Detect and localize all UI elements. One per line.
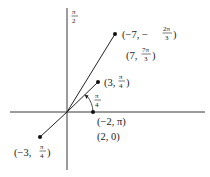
angle-label-pi-over-4: π 4: [95, 92, 102, 109]
point-c-label: (−2, π): [97, 116, 126, 128]
svg-text:2π: 2π: [163, 25, 171, 33]
ray-point-a: [67, 34, 115, 112]
svg-text:π: π: [119, 73, 123, 81]
svg-text:7π: 7π: [142, 46, 150, 54]
svg-text:(−3,: (−3,: [14, 147, 31, 159]
svg-text:(3,: (3,: [104, 77, 115, 89]
polar-diagram: π 2 π 4 (−7, − 2π 3 ) (7, 7π 3 ) (3, π 4: [0, 0, 210, 177]
point-c-alt-label: (2, 0): [97, 131, 120, 143]
point-d-dot: [38, 135, 42, 139]
point-b-label: (3, π 4 ): [104, 73, 130, 90]
svg-text:π: π: [72, 8, 76, 16]
svg-text:): ): [47, 147, 51, 159]
svg-text:2: 2: [72, 17, 76, 25]
svg-text:4: 4: [119, 82, 123, 90]
ray-point-d: [40, 112, 67, 137]
angle-arc: [87, 96, 93, 112]
svg-text:3: 3: [144, 55, 148, 63]
axis-label-pi-over-2: π 2: [72, 8, 79, 25]
svg-text:π: π: [40, 143, 44, 151]
svg-text:3: 3: [165, 34, 169, 42]
point-d-label: (−3, π 4 ): [14, 143, 51, 160]
svg-text:4: 4: [95, 101, 99, 109]
svg-text:): ): [126, 77, 130, 89]
svg-text:4: 4: [40, 152, 44, 160]
point-a-alt-label: (7, 7π 3 ): [126, 46, 156, 63]
svg-text:(7,: (7,: [126, 50, 137, 62]
svg-text:): ): [152, 50, 156, 62]
svg-text:π: π: [95, 92, 99, 100]
point-a-dot: [113, 32, 117, 36]
svg-text:(−7, −: (−7, −: [122, 29, 148, 41]
point-c-dot: [91, 110, 95, 114]
point-a-label: (−7, − 2π 3 ): [122, 25, 177, 42]
svg-text:): ): [173, 29, 177, 41]
point-b-dot: [96, 80, 100, 84]
